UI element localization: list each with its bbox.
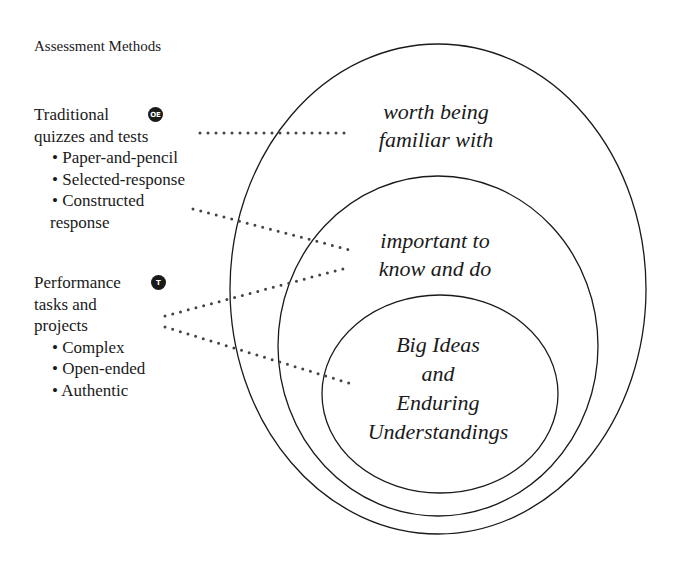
zone-label-outer: worth beingfamiliar with xyxy=(379,98,493,154)
connector-performance-middle xyxy=(165,267,350,316)
zone-label-inner: Big Ideasand EnduringUnderstandings xyxy=(368,330,509,446)
zone-label-middle: important toknow and do xyxy=(379,227,491,283)
nested-ellipses-diagram xyxy=(0,0,677,564)
connector-traditional-middle xyxy=(193,209,350,250)
